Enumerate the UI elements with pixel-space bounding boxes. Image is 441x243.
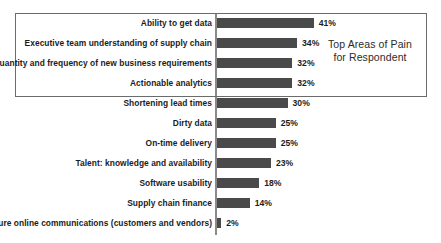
bar-category-label: Ability to get data <box>141 14 212 32</box>
bar-category-label: Actionable analytics <box>130 74 212 92</box>
bar-value-label: 30% <box>293 94 310 112</box>
bar-category-label: Talent: knowledge and availability <box>75 154 212 172</box>
bar-value-label: 41% <box>319 14 336 32</box>
bar-category-label: Executive team understanding of supply c… <box>25 34 212 52</box>
bar-value-label: 23% <box>276 154 293 172</box>
bar-row: Executive team understanding of supply c… <box>0 34 441 52</box>
bar-row: Actionable analytics32% <box>0 74 441 92</box>
bar-value-label: 32% <box>297 54 314 72</box>
bar-category-label: Dirty data <box>173 114 212 132</box>
bar-category-label: Software usability <box>139 174 212 192</box>
bar-category-label: On-time delivery <box>146 134 212 152</box>
bar-row: Ability to get data41% <box>0 14 441 32</box>
bar-row: On-time delivery25% <box>0 134 441 152</box>
bar-category-label: Secure online communications (customers … <box>0 214 212 232</box>
bar-chart: Top Areas of Pain for Respondent Ability… <box>0 0 441 243</box>
bar-fill <box>217 178 260 188</box>
bar-value-label: 18% <box>264 174 281 192</box>
bar-value-label: 25% <box>281 134 298 152</box>
bar-fill <box>217 98 288 108</box>
bar-fill <box>217 18 314 28</box>
bar-row: Shortening lead times30% <box>0 94 441 112</box>
bar-category-label: Shortening lead times <box>123 94 212 112</box>
bar-value-label: 25% <box>281 114 298 132</box>
bar-fill <box>217 78 293 88</box>
bar-row: Secure online communications (customers … <box>0 214 441 232</box>
bar-row: Supply chain finance14% <box>0 194 441 212</box>
bar-value-label: 34% <box>302 34 319 52</box>
bar-row: Quantity and frequency of new business r… <box>0 54 441 72</box>
bar-fill <box>217 38 298 48</box>
bar-row: Dirty data25% <box>0 114 441 132</box>
bar-fill <box>217 218 222 228</box>
bar-value-label: 14% <box>255 194 272 212</box>
bar-value-label: 2% <box>226 214 238 232</box>
bar-category-label: Supply chain finance <box>127 194 212 212</box>
bar-category-label: Quantity and frequency of new business r… <box>0 54 212 72</box>
bar-fill <box>217 198 250 208</box>
bar-row: Talent: knowledge and availability23% <box>0 154 441 172</box>
bar-row: Software usability18% <box>0 174 441 192</box>
bar-value-label: 32% <box>297 74 314 92</box>
bar-fill <box>217 138 276 148</box>
bar-fill <box>217 58 293 68</box>
bar-fill <box>217 158 272 168</box>
bar-fill <box>217 118 276 128</box>
